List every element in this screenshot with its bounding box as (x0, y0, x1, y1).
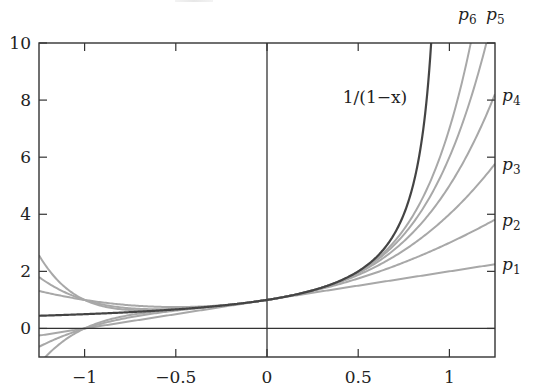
x-tick-label: 0 (262, 367, 273, 387)
label-inverse-one-minus-x: 1/(1−x) (343, 87, 407, 107)
curves-group (39, 0, 495, 364)
y-tick-label: 10 (9, 33, 31, 53)
taylor-series-chart: −1−0.500.510246810 1/(1−x) p6 p5 p4 p3 p… (0, 0, 540, 392)
label-p4: p4 (502, 85, 521, 108)
y-tick-label: 2 (20, 261, 31, 281)
label-p2: p2 (502, 210, 521, 233)
x-tick-label: −0.5 (155, 367, 196, 387)
x-tick-label: −1 (72, 367, 97, 387)
x-tick-label: 1 (444, 367, 455, 387)
x-tick-label: 0.5 (345, 367, 372, 387)
label-p1: p1 (502, 254, 521, 277)
label-p6: p6 (458, 4, 477, 27)
label-p3: p3 (502, 154, 521, 177)
y-tick-label: 8 (20, 90, 31, 110)
y-tick-label: 6 (20, 147, 31, 167)
y-tick-label: 0 (20, 318, 31, 338)
y-tick-label: 4 (20, 204, 31, 224)
label-p5: p5 (486, 4, 505, 27)
curve-inverse-one-minus-x (39, 0, 440, 316)
